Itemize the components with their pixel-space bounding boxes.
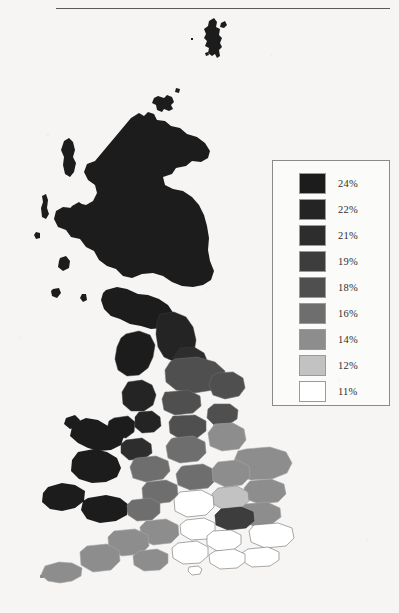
region-west-yorkshire <box>162 390 201 415</box>
region-cornwall <box>41 562 82 583</box>
region-group-wales <box>42 415 129 523</box>
region-greater-manchester <box>135 411 161 433</box>
region-shropshire-staffordshire <box>130 456 170 482</box>
region-east-sussex <box>242 547 279 567</box>
legend-swatch-18 <box>299 277 326 298</box>
legend-row: 12% <box>273 352 389 378</box>
region-island-islay <box>51 288 61 298</box>
legend-row: 16% <box>273 300 389 326</box>
map-legend: 24% 22% 21% 19% 18% 16% 14% 12% <box>272 160 390 406</box>
region-shetland-islands <box>204 18 222 58</box>
region-south-west-wales <box>42 483 85 511</box>
legend-swatch-14 <box>299 329 326 350</box>
legend-label-22: 22% <box>338 204 358 215</box>
header-divider-rule <box>56 8 390 9</box>
region-leicestershire-northamptonshire <box>176 464 216 490</box>
legend-swatch-16 <box>299 303 326 324</box>
region-lincolnshire <box>208 423 246 451</box>
legend-label-11: 11% <box>338 386 357 397</box>
legend-label-14: 14% <box>338 334 358 345</box>
region-isles-of-scilly <box>40 575 44 578</box>
legend-label-24: 24% <box>338 178 358 189</box>
legend-row: 21% <box>273 222 389 248</box>
legend-swatch-22 <box>299 199 326 220</box>
region-kent <box>249 523 294 548</box>
region-group-scotland <box>34 18 227 329</box>
legend-row: 18% <box>273 274 389 300</box>
legend-row: 22% <box>273 196 389 222</box>
region-outer-hebrides-lewis <box>61 138 76 177</box>
legend-label-19: 19% <box>338 256 358 267</box>
region-devon <box>80 544 120 572</box>
legend-row: 19% <box>273 248 389 274</box>
legend-label-16: 16% <box>338 308 358 319</box>
region-herefordshire-worcestershire <box>127 498 160 521</box>
page-canvas: 24% 22% 21% 19% 18% 16% 14% 12% <box>0 0 399 613</box>
region-south-east-wales <box>81 495 129 523</box>
region-greater-london <box>215 507 254 530</box>
legend-swatch-24 <box>299 173 326 194</box>
region-hampshire <box>172 541 208 564</box>
legend-row: 11% <box>273 378 389 404</box>
legend-label-18: 18% <box>338 282 358 293</box>
region-orkney-outlier <box>175 88 180 93</box>
region-cumbria <box>115 331 155 376</box>
region-shetland-north-isle <box>220 21 227 28</box>
region-island-mull <box>58 256 70 271</box>
region-derbyshire-nottinghamshire <box>166 436 206 463</box>
legend-label-12: 12% <box>338 360 358 371</box>
region-dorset <box>133 549 168 571</box>
map-regions <box>34 18 294 583</box>
legend-swatch-19 <box>299 251 326 272</box>
region-suffolk <box>244 479 286 504</box>
region-east-riding-yorkshire <box>209 372 245 399</box>
region-cambridgeshire <box>212 460 250 487</box>
region-outer-hebrides-barra <box>34 232 40 239</box>
region-fair-isle <box>191 38 193 40</box>
region-buckinghamshire-oxfordshire <box>174 490 214 517</box>
legend-swatch-11 <box>299 381 326 402</box>
legend-swatch-21 <box>299 225 326 246</box>
region-outer-hebrides-uist <box>41 194 49 219</box>
region-west-sussex <box>209 549 245 569</box>
region-mid-wales <box>71 449 121 483</box>
region-group-south-west <box>40 519 179 583</box>
legend-swatch-12 <box>299 355 326 376</box>
region-scotland-mainland <box>54 112 214 287</box>
region-orkney-islands <box>152 95 174 112</box>
legend-row: 14% <box>273 326 389 352</box>
region-island-arran <box>80 294 87 302</box>
region-humberside <box>207 404 238 425</box>
region-lancashire <box>122 380 156 411</box>
legend-row: 24% <box>273 170 389 196</box>
region-isle-of-wight <box>188 566 202 575</box>
legend-label-21: 21% <box>338 230 358 241</box>
region-surrey <box>207 530 241 551</box>
region-island-anglesey <box>64 415 80 429</box>
region-south-yorkshire <box>169 415 206 439</box>
